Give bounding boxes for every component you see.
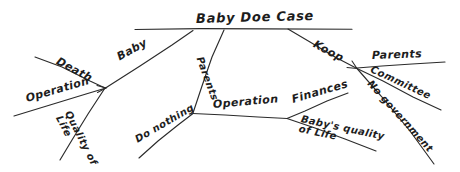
diagram-canvas: Baby Doe Case Death Baby Operation Quali… [0,0,460,172]
do-nothing-branch-line [139,114,193,159]
spine-line [135,29,352,30]
operation-left-branch-line [14,88,106,116]
parents-stem-line [193,30,224,113]
diagram-strokes [0,0,460,172]
koop-branch-line [288,29,357,69]
death-branch-line [35,57,105,88]
baby-branch-line [106,31,194,89]
operation-mid-branch-line [193,114,287,119]
finances-branch-line [287,93,348,119]
babys-quality-branch-line [287,119,376,152]
parents-right-branch-line [357,62,445,68]
no-government-branch-line [357,69,434,165]
quality-of-life-branch-line [60,88,105,160]
committee-branch-line [357,69,441,111]
